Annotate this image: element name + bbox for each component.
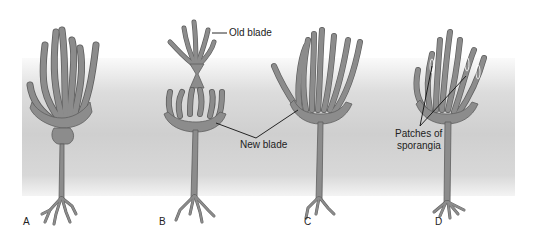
plant-b xyxy=(164,22,226,222)
label-sporangia-line1: Patches of xyxy=(395,128,442,139)
holdfast-b xyxy=(176,196,214,222)
panel-label-d: D xyxy=(435,216,442,227)
panel-label-b: B xyxy=(159,216,166,227)
panel-label-a: A xyxy=(23,216,30,227)
label-new-blade: New blade xyxy=(240,139,287,150)
old-blade xyxy=(170,22,214,88)
plant-c xyxy=(274,30,360,218)
label-old-blade: Old blade xyxy=(229,27,272,38)
holdfast-a xyxy=(42,198,76,224)
label-sporangia-line2: sporangia xyxy=(397,140,441,151)
kelp-regeneration-diagram: .p { fill:#8c8c8c; stroke:#5e5e5e; strok… xyxy=(0,0,533,246)
plant-d xyxy=(416,32,484,218)
panel-label-c: C xyxy=(304,216,311,227)
leader-new-blade xyxy=(216,110,298,138)
plant-a xyxy=(30,30,96,224)
holdfast-c xyxy=(306,198,334,218)
